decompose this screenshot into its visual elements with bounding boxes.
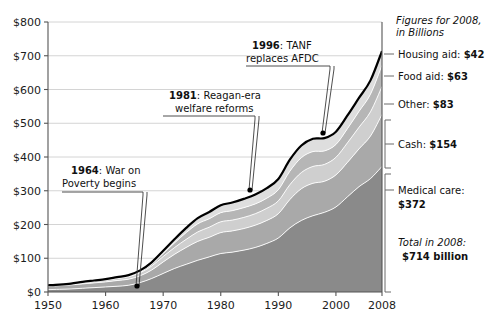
annotation-1981-line1: 1981: Reagan-era (169, 90, 261, 101)
annotation-1996-marker (320, 130, 325, 135)
legend-heading-line1: Figures for 2008, (396, 15, 481, 26)
annotation-1996-label: : TANF (280, 40, 312, 51)
annotation-1981-line2: welfare reforms (175, 103, 254, 114)
annotation-1964-year: 1964 (71, 165, 99, 176)
annotation-1996-line2: replaces AFDC (246, 53, 319, 64)
legend-value-housing-aid: $42 (464, 49, 485, 60)
legend-heading-line2: in Billions (396, 27, 444, 38)
legend-item-housing-aid: Housing aid: $42 (398, 49, 485, 60)
x-tick-label: 2008 (368, 299, 396, 312)
annotation-1981-label: : Reagan-era (197, 90, 261, 101)
legend-total-value: $714 billion (402, 251, 468, 262)
x-axis-ticks: 1950196019701980199020002008 (34, 292, 396, 312)
legend-value-cash: $154 (429, 139, 457, 150)
y-tick-label: $500 (13, 117, 41, 130)
legend: Figures for 2008, in Billions Housing ai… (384, 15, 485, 292)
y-tick-label: $200 (13, 219, 41, 232)
annotation-1981-marker (247, 187, 252, 192)
x-tick-label: 1980 (207, 299, 235, 312)
legend-value-food-aid: $63 (447, 71, 468, 82)
x-tick-label: 1960 (92, 299, 120, 312)
legend-total-label: Total in 2008: (398, 237, 466, 248)
chart-figure: $0$100$200$300$400$500$600$700$800 19501… (0, 0, 490, 317)
y-tick-label: $400 (13, 151, 41, 164)
x-tick-label: 1970 (149, 299, 177, 312)
annotation-1964-marker (134, 283, 139, 288)
y-tick-label: $800 (13, 16, 41, 29)
legend-item-cash: Cash: $154 (398, 139, 457, 150)
y-tick-label: $300 (13, 185, 41, 198)
annotation-1964-label: : War on (99, 165, 141, 176)
y-axis-ticks: $0$100$200$300$400$500$600$700$800 (13, 16, 48, 299)
annotation-1981-year: 1981 (169, 90, 197, 101)
legend-label-food-aid: Food aid: (398, 71, 444, 82)
x-tick-label: 1990 (264, 299, 292, 312)
legend-bracket-medical (385, 174, 391, 292)
stacked-area-chart: $0$100$200$300$400$500$600$700$800 19501… (0, 0, 490, 317)
legend-item-food-aid: Food aid: $63 (398, 71, 468, 82)
legend-label-other: Other: (398, 99, 430, 110)
legend-label-medical-care: Medical care: (398, 185, 465, 196)
legend-value-medical-care: $372 (398, 199, 426, 210)
y-tick-label: $100 (13, 252, 41, 265)
legend-label-cash: Cash: (398, 139, 426, 150)
x-tick-label: 1950 (34, 299, 62, 312)
annotation-1996-year: 1996 (252, 40, 280, 51)
x-tick-label: 2000 (322, 299, 350, 312)
annotation-1964-line2: Poverty begins (62, 178, 136, 189)
annotation-1996-line1: 1996: TANF (252, 40, 312, 51)
y-tick-label: $600 (13, 84, 41, 97)
y-tick-label: $0 (27, 286, 41, 299)
y-tick-label: $700 (13, 50, 41, 63)
legend-item-other: Other: $83 (398, 99, 454, 110)
legend-value-other: $83 (433, 99, 454, 110)
annotation-1964-line1: 1964: War on (71, 165, 141, 176)
legend-label-housing-aid: Housing aid: (398, 49, 460, 60)
